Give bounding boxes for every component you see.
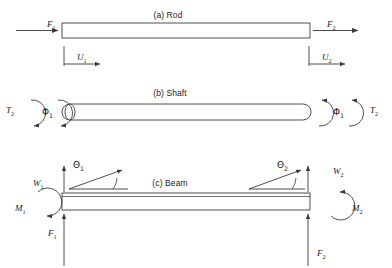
diagram-vector-layer: [0, 0, 392, 268]
label-rotation-theta1: Θ1: [73, 160, 84, 172]
label-displacement-u1: U1: [77, 52, 87, 64]
figure-canvas: (a) RodF1F2U1U2(b) ShaftT2Φ1Φ1T2(c) Beam…: [0, 0, 392, 268]
panel-title-rod: (a) Rod: [128, 10, 208, 20]
beam-theta2-arc: [292, 178, 296, 189]
rod-panel: [16, 23, 358, 66]
beam-theta1-ray: [69, 170, 122, 189]
label-force-f1: F1: [47, 19, 56, 31]
label-moment-m2: M2: [352, 203, 363, 215]
label-reaction-f2: F2: [317, 248, 326, 260]
panel-title-beam: (c) Beam: [130, 178, 210, 188]
label-rotation-theta2: Θ2: [277, 160, 288, 172]
panel-title-shaft: (b) Shaft: [130, 88, 210, 98]
rod-body: [62, 23, 310, 38]
beam-body: [62, 193, 310, 210]
shaft-twist-arc-right: [319, 100, 334, 126]
label-force-f2: F2: [327, 19, 336, 31]
beam-theta2-ray: [249, 170, 301, 189]
shaft-torque-arc-outer-right: [349, 100, 364, 126]
label-torque-t2-right: T2: [370, 105, 378, 117]
beam-m1-moment-arc: [38, 188, 62, 216]
shaft-panel: [31, 100, 364, 126]
label-deflection-w2: W2: [333, 166, 344, 178]
label-twist-phi1-left: Φ1: [42, 107, 53, 119]
label-torque-t2-left: T2: [6, 105, 14, 117]
label-reaction-f1: F1: [48, 228, 57, 240]
beam-theta1-arc: [113, 178, 117, 189]
shaft-end-ellipse: [65, 104, 75, 120]
label-twist-phi1-right: Φ1: [333, 107, 344, 119]
shaft-body: [62, 104, 311, 120]
label-moment-m1: M1: [15, 203, 26, 215]
label-displacement-u2: U2: [322, 52, 332, 64]
label-deflection-w1: W1: [33, 178, 44, 190]
